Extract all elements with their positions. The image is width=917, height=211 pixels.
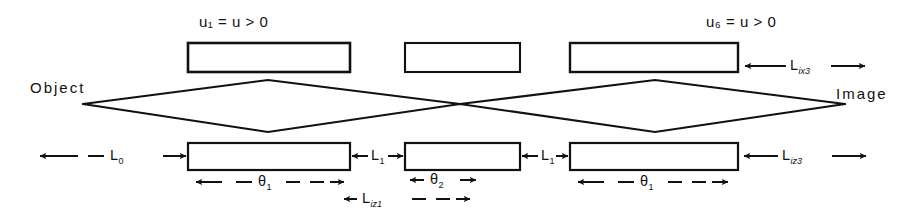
- object-label: Object: [30, 80, 85, 95]
- top-lens-2: [405, 43, 520, 72]
- bottom-lens-row: [188, 143, 738, 170]
- angle-theta2-label: θ2: [430, 172, 444, 190]
- ray-envelope: [83, 80, 845, 132]
- bottom-lens-3: [570, 143, 738, 170]
- ray-lower: [83, 104, 845, 132]
- dimension-Liz3-label: Liz3: [782, 148, 802, 166]
- angle-theta1-right-base: θ: [640, 173, 649, 189]
- beam-optics-figure: u₁ = u > 0 u₆ = u > 0 Object Image Lix3 …: [0, 0, 917, 211]
- top-lens-3-potential-text: u₆ = u > 0: [706, 13, 776, 30]
- angle-theta1-left-sub: 1: [267, 182, 272, 192]
- dimension-Liz3-base: L: [782, 147, 791, 163]
- top-lens-3: [570, 43, 738, 72]
- top-lens-1-potential-label: u₁ = u > 0: [199, 14, 268, 29]
- dimension-L0-label: L0: [110, 148, 124, 166]
- object-label-text: Object: [30, 79, 85, 96]
- angle-theta1-right-label: θ1: [640, 174, 654, 192]
- bottom-lens-1: [188, 143, 350, 170]
- ray-upper: [83, 80, 845, 104]
- bottom-lens-2: [405, 143, 520, 170]
- dimension-Liz1-label: Liz1: [362, 191, 382, 209]
- dimension-Liz1-sub: iz1: [371, 199, 383, 209]
- top-lens-1-potential-text: u₁ = u > 0: [199, 13, 268, 30]
- top-lens-1: [188, 43, 350, 72]
- dimension-Liz3-sub: iz3: [791, 156, 803, 166]
- dimension-L1b-sub: 1: [550, 156, 555, 166]
- angle-theta1-left-label: θ1: [258, 174, 272, 192]
- top-lens-3-potential-label: u₆ = u > 0: [706, 14, 776, 29]
- dimension-Lix3-base: L: [790, 57, 799, 73]
- dimension-L1a-base: L: [371, 147, 380, 163]
- dimension-L1b-base: L: [541, 147, 550, 163]
- dimension-L0-sub: 0: [119, 156, 124, 166]
- dimension-Lix3-label: Lix3: [790, 58, 810, 76]
- image-label: Image: [836, 86, 888, 101]
- dimension-L1a-sub: 1: [380, 156, 385, 166]
- angle-theta2-base: θ: [430, 171, 439, 187]
- angle-theta2-sub: 2: [439, 180, 444, 190]
- image-label-text: Image: [836, 85, 888, 102]
- dimension-Liz1-base: L: [362, 190, 371, 206]
- dimension-Lix3-sub: ix3: [799, 66, 811, 76]
- dimension-L1b-label: L1: [541, 148, 555, 166]
- dimension-L0-base: L: [110, 147, 119, 163]
- angle-theta1-right-sub: 1: [649, 182, 654, 192]
- dimension-L1a-label: L1: [371, 148, 385, 166]
- angle-theta1-left-base: θ: [258, 173, 267, 189]
- top-lens-row: [188, 43, 738, 72]
- figure-canvas: [0, 0, 917, 211]
